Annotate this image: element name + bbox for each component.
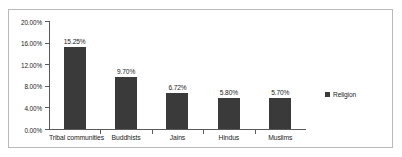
bar-value-label: 6.72% xyxy=(168,84,186,91)
bar-value-label: 9.70% xyxy=(117,68,135,75)
bar-wrap: 9.70% xyxy=(115,21,137,129)
chart-container: 20.00% 16.00% 12.00% 8.00% 4.00% 0.00% 1… xyxy=(8,9,393,148)
bar-slot: 9.70% xyxy=(100,21,151,129)
y-axis-label: 8.00% xyxy=(24,83,42,90)
bars-layer: 15.25% 9.70% 6.72% 5.80% xyxy=(49,21,306,129)
bar-wrap: 15.25% xyxy=(64,21,86,129)
legend-square-marker-icon xyxy=(325,92,330,97)
x-axis-category-label: Jains xyxy=(152,134,203,141)
bar[interactable] xyxy=(166,93,188,129)
y-axis-label: 20.00% xyxy=(21,18,42,25)
plot-area: 20.00% 16.00% 12.00% 8.00% 4.00% 0.00% 1… xyxy=(9,10,392,147)
legend-item-label: Religion xyxy=(333,91,356,98)
bar-slot: 5.70% xyxy=(255,21,306,129)
bar-wrap: 5.70% xyxy=(269,21,291,129)
x-axis-category-label: Muslims xyxy=(255,134,306,141)
y-axis-label: 4.00% xyxy=(24,104,42,111)
bar[interactable] xyxy=(115,77,137,129)
y-axis-label: 0.00% xyxy=(24,126,42,133)
bar[interactable] xyxy=(64,47,86,129)
bar-value-label: 5.80% xyxy=(220,89,238,96)
bar-slot: 15.25% xyxy=(49,21,100,129)
x-axis-line xyxy=(49,129,306,130)
bar-slot: 6.72% xyxy=(152,21,203,129)
bar[interactable] xyxy=(269,98,291,129)
y-axis-tick: 0.00% xyxy=(45,129,49,130)
chart-legend: Religion xyxy=(325,91,356,98)
bar-value-label: 5.70% xyxy=(271,89,289,96)
bar-slot: 5.80% xyxy=(203,21,254,129)
y-axis-label: 12.00% xyxy=(21,61,42,68)
x-axis-category-label: Tribal communities xyxy=(49,134,100,141)
x-axis-category-label: Buddhists xyxy=(100,134,151,141)
x-axis-category-label: Hindus xyxy=(203,134,254,141)
bar-wrap: 6.72% xyxy=(166,21,188,129)
bar-value-label: 15.25% xyxy=(64,38,86,45)
y-axis-label: 16.00% xyxy=(21,40,42,47)
bar-wrap: 5.80% xyxy=(218,21,240,129)
bar[interactable] xyxy=(218,98,240,129)
